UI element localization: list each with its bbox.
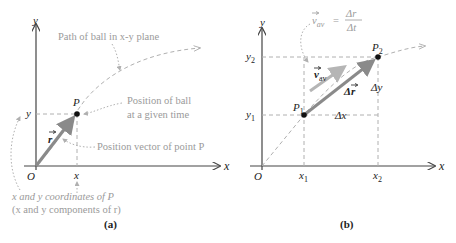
average-velocity-formula: vav = Δr Δt: [312, 8, 362, 33]
p1-label: P1: [292, 101, 304, 116]
delta-y-label: Δy: [370, 81, 382, 93]
y1-label: y1: [245, 108, 255, 123]
point-p: [74, 111, 80, 117]
panel-a: y x O P y x r Path of ball in x-y plane …: [11, 14, 230, 231]
v-av-label: vav: [314, 68, 326, 83]
p2-label: P2: [371, 41, 383, 56]
origin-label-b: O: [254, 170, 262, 182]
y-axis-label: y: [32, 14, 38, 26]
coord-x-label: x: [73, 169, 79, 181]
coords-annotation-line1: x and y coordinates of P: [11, 191, 115, 202]
path-annotation-pointer: [112, 44, 120, 70]
coords-annotation-line2: (x and y components of r): [12, 204, 121, 216]
point-p-label: P: [72, 96, 80, 108]
delta-x-label: Δx: [334, 109, 346, 121]
position-annotation-line1: Position of ball: [127, 95, 191, 106]
origin-label: O: [27, 170, 35, 182]
vector-annotation: Position vector of point P: [97, 141, 204, 152]
panel-b: y x O P1 P2 y2 y1 x1 x2 Δx Δy Δr vav vav: [245, 8, 445, 231]
caption-a: (a): [104, 218, 117, 231]
formula-denominator: Δt: [346, 22, 357, 33]
coords-annotation-pointer-y: [11, 117, 20, 190]
y2-label: y2: [245, 50, 255, 65]
caption-b: (b): [340, 218, 354, 231]
ball-path-b: [262, 46, 425, 166]
path-annotation: Path of ball in x-y plane: [58, 31, 160, 42]
vector-r-label: r: [48, 133, 53, 145]
formula-equals: =: [333, 15, 339, 26]
y-axis-label-b: y: [259, 16, 265, 28]
delta-r-label: Δr: [343, 85, 356, 97]
formula-numerator: Δr: [345, 8, 357, 19]
formula-lhs: vav: [312, 15, 325, 29]
x2-label: x2: [372, 169, 382, 184]
coord-y-label: y: [25, 107, 31, 119]
vector-annotation-pointer: [63, 139, 95, 147]
position-annotation-line2: at a given time: [127, 109, 189, 120]
x-axis-label: x: [223, 159, 230, 173]
x-axis-label-b: x: [438, 159, 445, 173]
position-annotation-pointer: [84, 103, 122, 114]
x1-label: x1: [298, 169, 308, 184]
formula-pointer: [301, 24, 310, 62]
kinematics-diagram: y x O P y x r Path of ball in x-y plane …: [0, 0, 456, 243]
